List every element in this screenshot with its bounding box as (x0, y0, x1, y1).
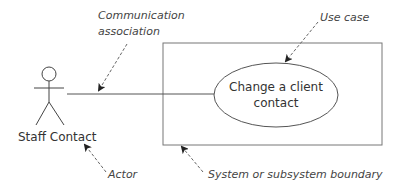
actor-pointer-arrow (85, 145, 106, 172)
diagram-graphics (0, 0, 400, 196)
use-case-diagram: Communication association Use case Actor… (0, 0, 400, 196)
use-case-name: Change a client contact (216, 79, 336, 111)
actor-name: Staff Contact (18, 130, 96, 144)
communication-label-line1: Communication (98, 9, 185, 22)
use-case-pointer-arrow (286, 22, 318, 61)
communication-pointer-arrow (99, 44, 127, 90)
actor-annotation-label: Actor (108, 168, 137, 181)
boundary-annotation-label: System or subsystem boundary (208, 168, 383, 181)
communication-label-line2: association (98, 25, 160, 38)
use-case-name-line1: Change a client (216, 79, 336, 95)
use-case-name-line2: contact (216, 95, 336, 111)
actor-figure (34, 67, 64, 125)
boundary-pointer-arrow (182, 147, 203, 172)
use-case-annotation-label: Use case (320, 11, 369, 24)
